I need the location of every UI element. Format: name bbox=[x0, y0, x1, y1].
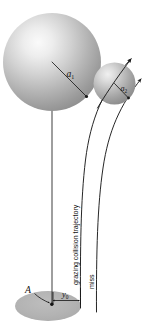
radius-small-subscript: 2 bbox=[125, 88, 128, 94]
ground-ellipse bbox=[15, 291, 81, 321]
physics-diagram: a1 a2 y0 A grazing collision trajectory … bbox=[0, 0, 150, 326]
point-a-label: A bbox=[24, 284, 32, 295]
miss-trajectory-label: miss bbox=[88, 274, 96, 289]
point-a-marker bbox=[50, 303, 53, 306]
small-sphere-radius-endpoint bbox=[127, 97, 130, 100]
large-sphere-radius-endpoint bbox=[85, 95, 88, 98]
figure-container: a1 a2 y0 A grazing collision trajectory … bbox=[0, 0, 150, 326]
miss-trajectory-curve bbox=[96, 79, 141, 312]
impact-parameter-label: y0 bbox=[61, 290, 69, 300]
radius-large-subscript: 1 bbox=[71, 74, 74, 80]
impact-parameter-subscript: 0 bbox=[66, 294, 69, 300]
grazing-collision-trajectory-label: grazing collision trajectory bbox=[72, 204, 80, 285]
